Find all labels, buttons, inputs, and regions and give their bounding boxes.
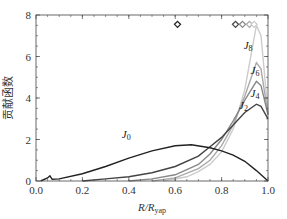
y-tick-label: 0 xyxy=(26,175,32,187)
x-tick-label: 0.6 xyxy=(168,184,182,196)
series-line-J6 xyxy=(152,63,268,181)
x-tick-label: 0.2 xyxy=(76,184,90,196)
peak-markers xyxy=(175,21,258,27)
series-line-J4 xyxy=(129,81,268,181)
series-label-J0: J0 xyxy=(122,128,131,142)
x-axis-label-main: R/R xyxy=(137,201,155,213)
series-line-J0 xyxy=(41,145,268,181)
y-axis-label: 贡献函数 xyxy=(1,76,15,120)
x-tick-label: 0.8 xyxy=(215,184,229,196)
x-axis-label: R/Ryap xyxy=(137,201,166,215)
axis-ticks: 0.00.20.40.60.81.002468 xyxy=(26,9,276,196)
x-tick-label: 0.0 xyxy=(29,184,43,196)
series-line-J2 xyxy=(82,104,268,181)
diamond-marker-icon xyxy=(239,21,245,27)
contribution-function-chart: 0.00.20.40.60.81.002468 J0J2J4J6J8 贡献函数 … xyxy=(0,0,287,219)
x-tick-label: 0.4 xyxy=(122,184,136,196)
y-tick-label: 8 xyxy=(26,9,32,21)
series-lines xyxy=(41,25,268,181)
y-tick-label: 6 xyxy=(26,51,32,63)
series-label-J8: J8 xyxy=(244,39,253,53)
y-tick-label: 4 xyxy=(26,92,32,104)
series-label-J4: J4 xyxy=(251,87,260,101)
x-axis-label-sub: yap xyxy=(154,206,166,215)
plot-frame xyxy=(36,15,268,181)
diamond-marker-icon xyxy=(233,21,239,27)
series-labels: J0J2J4J6J8 xyxy=(122,39,260,142)
diamond-marker-icon xyxy=(175,21,181,27)
series-label-J2: J2 xyxy=(239,99,248,113)
x-tick-label: 1.0 xyxy=(261,184,275,196)
y-tick-label: 2 xyxy=(26,134,32,146)
